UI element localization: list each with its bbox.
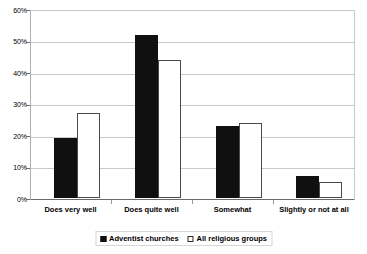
x-axis-label-does-quite-well: Does quite well <box>111 205 192 214</box>
y-axis-tick-label: 40% <box>0 70 27 77</box>
bar-group-does-very-well <box>41 11 113 199</box>
legend-label: Adventist churches <box>109 234 179 243</box>
bar-adventist-churches[interactable] <box>135 35 158 198</box>
y-axis-tick-label: 10% <box>0 164 27 171</box>
bar-all-religious-groups[interactable] <box>77 113 100 198</box>
bar-group-slightly-or-not-at-all <box>283 11 355 199</box>
bar-adventist-churches[interactable] <box>216 126 239 198</box>
bar-chart: 60% 50% 40% 30% 20% 10% 0% <box>0 0 367 254</box>
y-axis-tick-label: 0% <box>0 196 27 203</box>
x-axis-tick-mark <box>192 200 193 204</box>
x-axis-label-somewhat: Somewhat <box>192 205 273 214</box>
bar-all-religious-groups[interactable] <box>158 60 181 198</box>
y-axis-tick-label: 30% <box>0 101 27 108</box>
x-axis-label-slightly-or-not-at-all: Slightly or not at all <box>271 205 357 214</box>
filled-square-icon <box>100 236 106 242</box>
bar-all-religious-groups[interactable] <box>239 123 262 198</box>
y-axis-tick-label: 20% <box>0 133 27 140</box>
legend-label: All religious groups <box>197 234 267 243</box>
bar-group-does-quite-well <box>122 11 194 199</box>
bar-all-religious-groups[interactable] <box>319 182 342 198</box>
hollow-square-icon <box>188 236 194 242</box>
legend-item-all-religious-groups[interactable]: All religious groups <box>188 234 267 243</box>
legend-item-adventist-churches[interactable]: Adventist churches <box>100 234 179 243</box>
x-axis-tick-mark <box>273 200 274 204</box>
y-axis-tick-label: 60% <box>0 7 27 14</box>
y-axis-tick-label: 50% <box>0 38 27 45</box>
bar-adventist-churches[interactable] <box>296 176 319 198</box>
x-axis-label-does-very-well: Does very well <box>30 205 111 214</box>
x-axis-tick-mark <box>111 200 112 204</box>
chart-legend: Adventist churches All religious groups <box>95 231 272 246</box>
bar-adventist-churches[interactable] <box>54 138 77 198</box>
plot-area <box>30 10 355 200</box>
bar-group-somewhat <box>203 11 275 199</box>
